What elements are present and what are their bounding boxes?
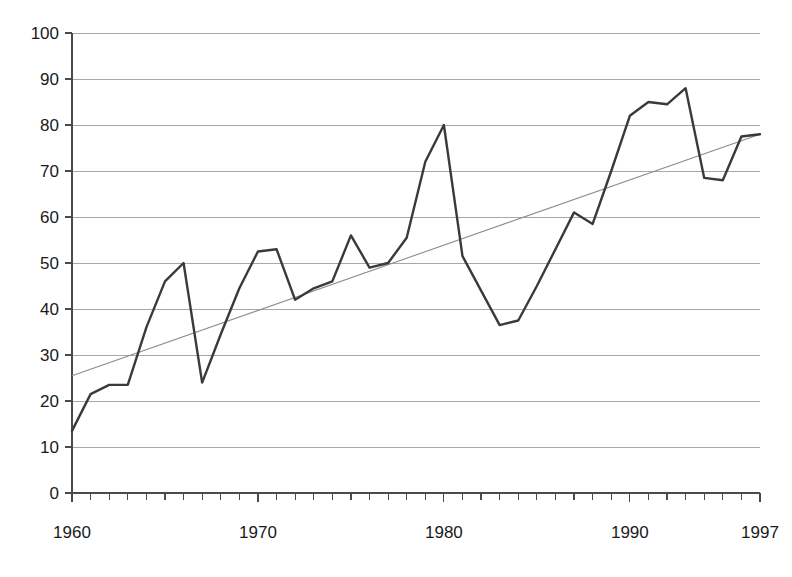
x-tick-label-1970: 1970 (239, 523, 277, 542)
x-tick-label-1990: 1990 (611, 523, 649, 542)
y-axis-labels-group: 0102030405060708090100 (31, 24, 59, 503)
y-tick-label-50: 50 (40, 254, 59, 273)
x-axis-minor-ticks-group (72, 493, 760, 502)
x-axis-labels-group: 19601970198019901997 (53, 523, 779, 542)
data-series-line (72, 88, 760, 431)
y-tick-label-40: 40 (40, 300, 59, 319)
y-tick-label-0: 0 (50, 484, 59, 503)
y-tick-label-100: 100 (31, 24, 59, 43)
y-tick-label-80: 80 (40, 116, 59, 135)
y-tick-label-60: 60 (40, 208, 59, 227)
chart-canvas: 0102030405060708090100 19601970198019901… (0, 0, 792, 577)
y-tick-label-70: 70 (40, 162, 59, 181)
y-axis-ticks-group (65, 33, 72, 493)
x-tick-label-1980: 1980 (425, 523, 463, 542)
line-chart: 0102030405060708090100 19601970198019901… (0, 0, 792, 577)
gridlines-group (72, 33, 760, 447)
trend-line (72, 134, 760, 376)
x-tick-label-1960: 1960 (53, 523, 91, 542)
y-tick-label-10: 10 (40, 438, 59, 457)
y-tick-label-20: 20 (40, 392, 59, 411)
y-tick-label-30: 30 (40, 346, 59, 365)
x-tick-label-1997: 1997 (741, 523, 779, 542)
y-tick-label-90: 90 (40, 70, 59, 89)
